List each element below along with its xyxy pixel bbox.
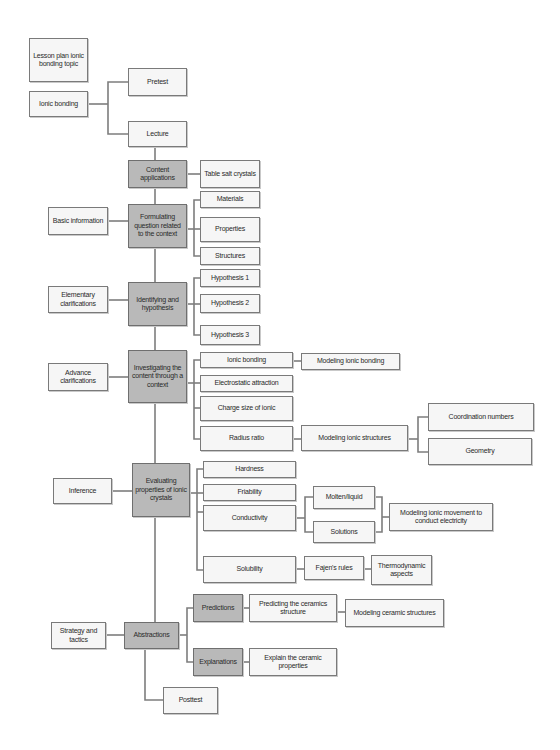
strategy-tactics-label: Strategy and tactics xyxy=(54,627,103,644)
ionic-bonding-topic-label: Ionic bonding xyxy=(39,100,78,109)
geometry-label: Geometry xyxy=(465,447,494,456)
predicting-ceramics-box: Predicting the ceramics structure xyxy=(249,594,337,622)
fajens-rules-label: Fajen's rules xyxy=(316,564,353,573)
evaluating-properties-box: Evaluating properties of ionic crystals xyxy=(132,463,190,517)
conductivity-label: Conductivity xyxy=(232,514,268,523)
ionic-bonding-topic-box: Ionic bonding xyxy=(29,91,88,117)
conductivity-box: Conductivity xyxy=(203,505,296,531)
explain-ceramic-box: Explain the ceramic properties xyxy=(249,648,337,676)
hardness-label: Hardness xyxy=(235,465,263,474)
radius-ratio-label: Radius ratio xyxy=(229,434,264,443)
ionic-bonding-sub-box: Ionic bonding xyxy=(200,352,293,368)
fajens-rules-box: Fajen's rules xyxy=(304,556,364,580)
thermodynamic-aspects-box: Thermodynamic aspects xyxy=(371,555,432,585)
explain-ceramic-label: Explain the ceramic properties xyxy=(252,654,334,671)
hypothesis-3-label: Hypothesis 3 xyxy=(211,331,249,340)
materials-label: Materials xyxy=(217,195,244,204)
lecture-label: Lecture xyxy=(147,130,169,139)
modeling-ionic-movement-label: Modeling ionic movement to conduct elect… xyxy=(392,509,490,526)
ionic-bonding-sub-label: Ionic bonding xyxy=(227,356,266,365)
hypothesis-2-label: Hypothesis 2 xyxy=(211,299,249,308)
coordination-numbers-box: Coordination numbers xyxy=(428,403,534,431)
structures-label: Structures xyxy=(215,252,245,261)
modeling-ionic-bonding-label: Modeling ionic bonding xyxy=(317,357,384,366)
evaluating-properties-label: Evaluating properties of ionic crystals xyxy=(135,477,187,503)
geometry-box: Geometry xyxy=(428,438,532,465)
friability-label: Friability xyxy=(237,488,261,497)
explanations-box: Explanations xyxy=(193,648,243,676)
modeling-ceramic-structures-box: Modeling ceramic structures xyxy=(345,599,444,627)
pretest-box: Pretest xyxy=(128,68,187,96)
abstractions-label: Abstractions xyxy=(133,631,169,640)
predictions-box: Predictions xyxy=(193,594,243,622)
modeling-ceramic-structures-label: Modeling ceramic structures xyxy=(353,609,435,618)
formulating-question-label: Formulating question related to the cont… xyxy=(131,213,184,239)
hypothesis-1-box: Hypothesis 1 xyxy=(200,269,260,287)
hypothesis-1-label: Hypothesis 1 xyxy=(211,274,249,283)
thermodynamic-aspects-label: Thermodynamic aspects xyxy=(374,562,429,579)
modeling-ionic-structures-label: Modeling ionic structures xyxy=(318,434,390,443)
electrostatic-attraction-box: Electrostatic attraction xyxy=(200,375,293,392)
table-salt-crystals-box: Table salt crystals xyxy=(200,160,260,188)
modeling-ionic-movement-box: Modeling ionic movement to conduct elect… xyxy=(389,503,493,531)
explanations-label: Explanations xyxy=(199,658,237,667)
solubility-label: Solubility xyxy=(236,565,262,574)
solutions-label: Solutions xyxy=(331,528,358,537)
radius-ratio-box: Radius ratio xyxy=(200,426,293,451)
pretest-label: Pretest xyxy=(147,78,168,87)
advance-clarifications-box: Advance clarifications xyxy=(48,363,108,391)
properties-label: Properties xyxy=(215,225,245,234)
electrostatic-attraction-label: Electrostatic attraction xyxy=(214,379,278,388)
modeling-ionic-bonding-box: Modeling ionic bonding xyxy=(301,353,400,370)
hypothesis-3-box: Hypothesis 3 xyxy=(200,325,260,345)
properties-box: Properties xyxy=(200,217,260,242)
predicting-ceramics-label: Predicting the ceramics structure xyxy=(252,600,334,617)
lesson-plan-box: Lesson plan ionic bonding topic xyxy=(29,38,88,82)
advance-clarifications-label: Advance clarifications xyxy=(51,369,105,386)
inference-box: Inference xyxy=(53,478,112,504)
lesson-plan-label: Lesson plan ionic bonding topic xyxy=(32,52,85,69)
identifying-hypothesis-label: Identifying and hypothesis xyxy=(131,296,184,313)
identifying-hypothesis-box: Identifying and hypothesis xyxy=(128,282,187,326)
investigating-content-label: Investigating the content through a cont… xyxy=(131,364,184,390)
structures-box: Structures xyxy=(200,247,260,265)
basic-information-label: Basic information xyxy=(53,217,103,226)
predictions-label: Predictions xyxy=(202,604,234,613)
hypothesis-2-box: Hypothesis 2 xyxy=(200,294,260,313)
lecture-box: Lecture xyxy=(128,121,187,147)
solutions-box: Solutions xyxy=(313,521,375,543)
charge-size-box: Charge size of ionic xyxy=(200,396,293,421)
abstractions-box: Abstractions xyxy=(124,622,179,649)
strategy-tactics-box: Strategy and tactics xyxy=(51,622,106,649)
inference-label: Inference xyxy=(69,487,96,496)
solubility-box: Solubility xyxy=(203,556,296,583)
investigating-content-box: Investigating the content through a cont… xyxy=(128,350,187,403)
posttest-label: Posttest xyxy=(179,696,203,705)
elementary-clarifications-label: Elementary clarifications xyxy=(51,291,105,308)
content-applications-box: Content applications xyxy=(128,160,187,188)
elementary-clarifications-box: Elementary clarifications xyxy=(48,286,108,313)
formulating-question-box: Formulating question related to the cont… xyxy=(128,204,187,248)
flowchart-canvas: Lesson plan ionic bonding topic Ionic bo… xyxy=(0,0,560,750)
posttest-box: Posttest xyxy=(163,687,218,714)
materials-box: Materials xyxy=(200,191,260,208)
coordination-numbers-label: Coordination numbers xyxy=(449,413,514,422)
modeling-ionic-structures-box: Modeling ionic structures xyxy=(301,425,408,451)
charge-size-label: Charge size of ionic xyxy=(218,404,275,413)
molten-liquid-label: Molten/liquid xyxy=(326,493,363,502)
molten-liquid-box: Molten/liquid xyxy=(313,486,375,509)
basic-information-box: Basic information xyxy=(48,207,108,235)
friability-box: Friability xyxy=(203,484,296,501)
content-applications-label: Content applications xyxy=(131,166,184,183)
hardness-box: Hardness xyxy=(203,461,296,478)
table-salt-crystals-label: Table salt crystals xyxy=(204,170,255,179)
